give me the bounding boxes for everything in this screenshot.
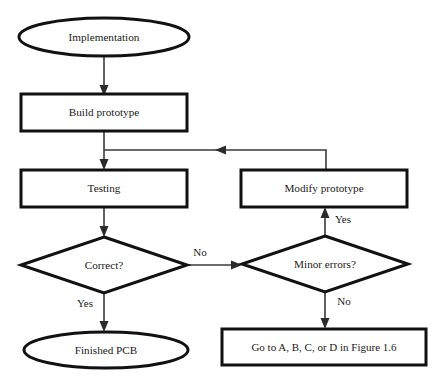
flowchart-canvas: Minor errors? --> Finished PCB --> Modif… <box>0 0 443 388</box>
edge-implementation-to-build-prototype <box>100 55 109 96</box>
edge-correct-no-to-minor-errors <box>187 261 242 270</box>
node-finished-pcb[interactable]: Finished PCB <box>24 332 188 368</box>
node-minor-errors-decision[interactable]: Minor errors? <box>242 236 408 292</box>
node-minor-errors-decision-label: Minor errors? <box>294 258 356 270</box>
node-modify-prototype[interactable]: Modify prototype <box>241 170 407 207</box>
node-build-prototype[interactable]: Build prototype <box>21 94 187 131</box>
node-testing-label: Testing <box>88 182 121 194</box>
node-modify-prototype-label: Modify prototype <box>284 182 363 194</box>
edge-testing-to-correct <box>100 207 109 237</box>
flowchart-diagram: Minor errors? --> Finished PCB --> Modif… <box>0 0 443 388</box>
edge-minor-errors-no-to-goto-figure <box>321 292 330 329</box>
edge-label-minor-no: No <box>337 295 351 307</box>
edge-label-correct-yes: Yes <box>77 297 93 309</box>
edge-correct-yes-to-finished-pcb <box>100 293 109 332</box>
node-build-prototype-label: Build prototype <box>69 106 140 118</box>
node-implementation[interactable]: Implementation <box>19 18 189 56</box>
node-goto-figure[interactable]: Go to A, B, C, or D in Figure 1.6 <box>222 329 426 365</box>
node-implementation-label: Implementation <box>69 31 140 43</box>
node-finished-pcb-label: Finished PCB <box>75 344 137 356</box>
edge-label-correct-no: No <box>193 246 207 258</box>
edge-modify-prototype-loop-back <box>104 146 326 171</box>
edge-label-minor-yes: Yes <box>335 213 351 225</box>
node-testing[interactable]: Testing <box>21 170 187 207</box>
node-correct-decision-label: Correct? <box>85 259 124 271</box>
node-goto-figure-label: Go to A, B, C, or D in Figure 1.6 <box>251 341 397 353</box>
node-correct-decision[interactable]: Correct? <box>21 237 187 293</box>
edge-minor-errors-yes-to-modify-prototype <box>321 207 330 236</box>
